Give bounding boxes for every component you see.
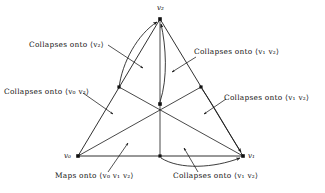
dot-centroid [158, 102, 162, 106]
dot-v0 [76, 154, 80, 158]
vertex-label-v1: v₁ [248, 152, 255, 159]
diagram-dots [76, 17, 245, 158]
figure-canvas: v₂ v₀ v₁ Collapses onto ⟨v₂⟩ Collapses o… [0, 0, 325, 193]
vertex-label-v0: v₀ [64, 152, 71, 159]
annotation-mid-left: Collapses onto ⟨v₀ v₂⟩ [4, 88, 89, 95]
median-v0-m12 [78, 87, 201, 156]
arrow-centroid-to-v2 [160, 24, 165, 102]
pointer-mid-left [83, 93, 113, 114]
dot-v2 [158, 17, 162, 21]
annotation-top-right: Collapses onto ⟨v₁ v₂⟩ [194, 48, 279, 55]
dot-midpoint-v0-v2 [117, 85, 120, 88]
dot-midpoint-v1-v2 [199, 85, 202, 88]
dot-v1 [241, 154, 245, 158]
annotation-mid-right: Collapses onto ⟨v₁ v₂⟩ [224, 94, 309, 101]
arrow-m01-to-v1 [161, 158, 240, 166]
pointer-bottom-right [184, 148, 198, 172]
annotation-bottom-right: Collapses onto ⟨v₁ v₂⟩ [173, 172, 258, 179]
pointer-mid-right [204, 99, 226, 114]
annotation-top-left: Collapses onto ⟨v₂⟩ [29, 41, 104, 48]
annotation-pointers [83, 45, 226, 172]
pointer-bottom-left [108, 143, 128, 172]
vertex-label-v2: v₂ [157, 4, 164, 11]
annotation-bottom-left: Maps onto ⟨v₀ v₁ v₂⟩ [55, 172, 134, 179]
dot-midpoint-v0-v1 [158, 154, 161, 157]
